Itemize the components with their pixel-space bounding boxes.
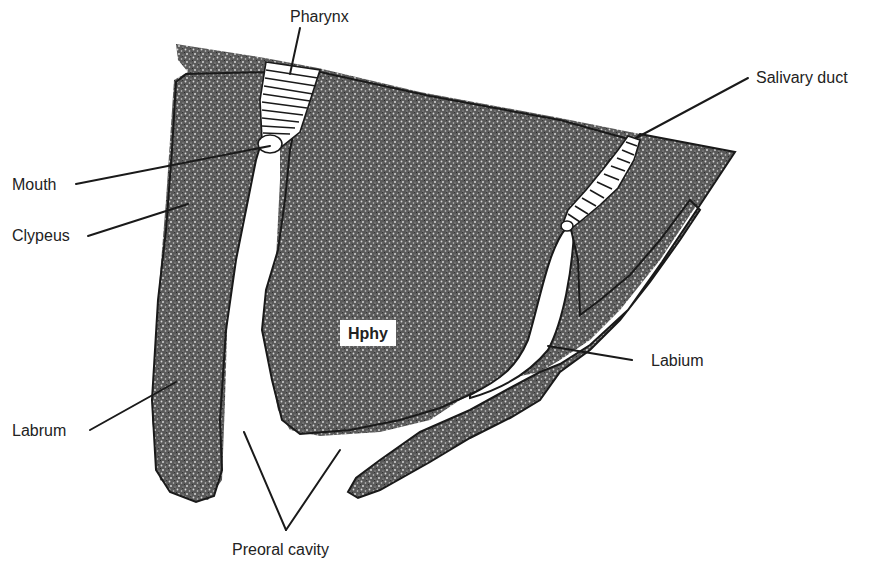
label-pharynx: Pharynx xyxy=(290,8,349,25)
leader-preoral-1 xyxy=(244,432,286,530)
label-clypeus: Clypeus xyxy=(12,227,70,244)
mouthparts-diagram: Hphy Pharynx Salivary duct Mouth Clypeus… xyxy=(0,0,892,572)
leader-preoral-2 xyxy=(286,450,340,530)
mouth-opening xyxy=(258,135,282,153)
label-labium: Labium xyxy=(651,352,703,369)
label-mouth: Mouth xyxy=(12,176,56,193)
label-labrum: Labrum xyxy=(12,422,66,439)
label-salivary-duct: Salivary duct xyxy=(756,69,848,86)
labrum-clypeus xyxy=(152,72,270,502)
label-hphy: Hphy xyxy=(348,325,388,342)
leader-salivary-duct xyxy=(636,78,748,138)
label-preoral-cavity: Preoral cavity xyxy=(232,541,329,558)
